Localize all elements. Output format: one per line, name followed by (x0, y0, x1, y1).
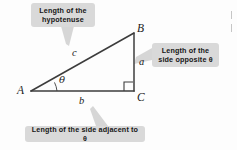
trigonometry-figure: Length of the hypotenuse Length of the s… (0, 0, 237, 150)
leader-adjacent (90, 106, 108, 126)
right-angle-marker-icon (124, 82, 133, 91)
callout-hypotenuse-line2: hypotenuse (42, 15, 84, 24)
leader-hypotenuse (61, 26, 74, 46)
callout-side-opposite: Length of the side opposite θ (152, 43, 219, 67)
side-label-adjacent: b (79, 95, 84, 106)
side-label-hypotenuse: c (72, 47, 77, 58)
callout-hypotenuse: Length of the hypotenuse (31, 3, 95, 27)
callout-hypotenuse-line1: Length of the (39, 6, 86, 15)
vertex-label-c: C (137, 91, 145, 103)
angle-label-theta: θ (59, 74, 65, 85)
triangle-side-hypotenuse (31, 33, 134, 91)
cropped-text-fragment (231, 11, 232, 19)
cropped-text-fragment (231, 24, 232, 32)
callout-opposite-line1: Length of the (162, 46, 209, 55)
callout-side-adjacent: Length of the side adjacent to θ (25, 126, 145, 142)
angle-arc-theta-icon (55, 82, 58, 91)
vertex-label-a: A (17, 84, 24, 96)
callout-adjacent-line1: Length of the side adjacent to θ (29, 125, 141, 144)
side-label-opposite: a (139, 56, 144, 67)
callout-opposite-line2: side opposite θ (158, 55, 212, 64)
vertex-label-b: B (137, 22, 144, 34)
